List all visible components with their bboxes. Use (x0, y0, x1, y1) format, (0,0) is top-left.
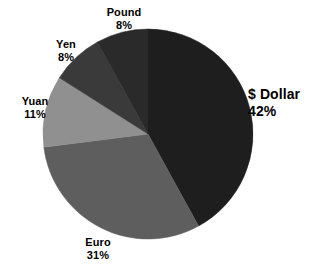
slice-label-yuan-percent: 11% (8, 108, 62, 121)
slice-label-yuan: Yuan 11% (8, 95, 62, 121)
pie-chart: $ Dollar 42% Euro 31% Yuan 11% Yen 8% Po… (0, 0, 312, 267)
slice-label-euro-percent: 31% (68, 249, 128, 262)
slice-label-dollar: $ Dollar 42% (248, 86, 300, 119)
slice-label-yuan-name: Yuan (8, 95, 62, 108)
slice-label-yen-name: Yen (44, 38, 88, 51)
slice-label-dollar-name: $ Dollar (248, 86, 300, 103)
slice-label-pound-percent: 8% (94, 19, 154, 32)
slice-label-yen: Yen 8% (44, 38, 88, 64)
slice-label-yen-percent: 8% (44, 51, 88, 64)
slice-label-euro: Euro 31% (68, 236, 128, 262)
slice-label-dollar-percent: 42% (248, 103, 300, 120)
slice-label-pound-name: Pound (94, 6, 154, 19)
slice-label-euro-name: Euro (68, 236, 128, 249)
slice-label-pound: Pound 8% (94, 6, 154, 32)
